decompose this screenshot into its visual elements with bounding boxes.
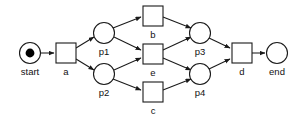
place-end[interactable] — [267, 43, 288, 64]
place-label-p3: p3 — [195, 46, 206, 57]
arc-p2-to-c — [113, 79, 141, 90]
transition-label-b: b — [150, 29, 155, 40]
transition-a[interactable] — [56, 43, 76, 63]
labels-layer: startp1p2p3p4endabecd — [21, 29, 285, 116]
place-p2[interactable] — [94, 64, 115, 85]
transition-e[interactable] — [143, 44, 163, 64]
nodes-layer — [20, 6, 288, 102]
arc-e-to-p4 — [163, 58, 191, 70]
arc-p1-to-e — [114, 37, 141, 50]
place-label-p1: p1 — [99, 46, 110, 57]
transition-label-d: d — [239, 66, 244, 77]
arc-a-to-p2 — [76, 59, 94, 70]
token-start — [26, 49, 35, 58]
petri-net-canvas: startp1p2p3p4endabecd — [0, 0, 302, 122]
transition-c[interactable] — [143, 82, 163, 102]
place-label-p4: p4 — [195, 87, 206, 98]
transition-label-e: e — [150, 67, 155, 78]
arc-b-to-p3 — [163, 17, 191, 28]
arc-p2-to-e — [114, 58, 141, 70]
transition-b[interactable] — [143, 6, 163, 26]
place-p3[interactable] — [190, 23, 211, 44]
petri-net-diagram: startp1p2p3p4endabecd — [0, 0, 302, 122]
arc-e-to-p3 — [163, 37, 191, 50]
place-label-p2: p2 — [99, 87, 110, 98]
place-p4[interactable] — [190, 64, 211, 85]
transition-label-c: c — [151, 105, 156, 116]
arc-p3-to-d — [209, 38, 230, 48]
arc-a-to-p1 — [76, 37, 94, 48]
place-label-end: end — [269, 66, 285, 77]
arc-p4-to-d — [209, 59, 230, 69]
place-label-start: start — [21, 66, 40, 77]
transition-d[interactable] — [232, 43, 252, 63]
place-p1[interactable] — [94, 23, 115, 44]
arc-p1-to-b — [113, 17, 141, 28]
transition-label-a: a — [63, 66, 69, 77]
arc-c-to-p4 — [163, 79, 191, 90]
